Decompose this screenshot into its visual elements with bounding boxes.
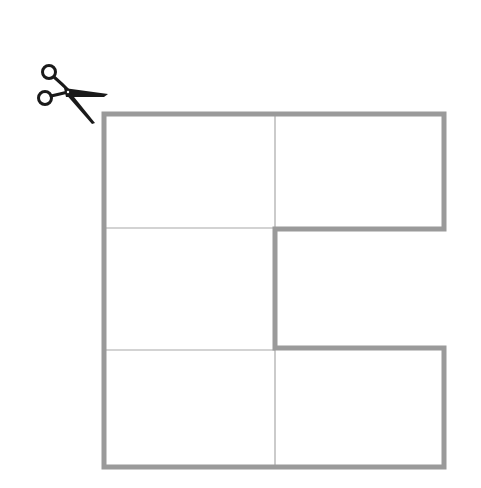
cell-top-right	[275, 116, 442, 227]
cells	[106, 116, 442, 465]
scissors-icon	[39, 66, 109, 125]
cell-middle-left	[106, 228, 275, 350]
cell-bottom-right	[275, 350, 442, 465]
diagram-canvas	[0, 0, 481, 488]
cell-bottom-left	[106, 350, 275, 465]
cell-top-left	[106, 116, 275, 228]
